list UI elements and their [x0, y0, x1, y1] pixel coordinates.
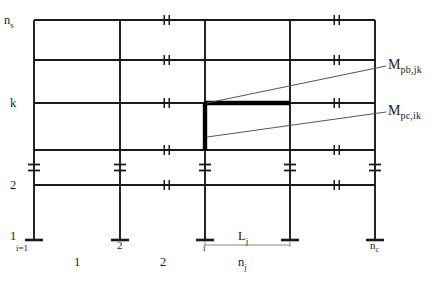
- moment-label-pc-ik: Mpc,ik: [388, 104, 421, 121]
- bay-label-2: 2: [160, 256, 166, 269]
- highlighted-members: [205, 103, 290, 150]
- bay-label-nj: nj: [238, 256, 247, 272]
- moment-label-pb-jk: Mpb,jk: [388, 58, 422, 75]
- bay-label-1: 1: [74, 256, 80, 269]
- dimension-label-Lj: Lj: [238, 230, 248, 246]
- column-index-label-nc: nc: [370, 240, 379, 254]
- story-label-k: k: [10, 97, 16, 110]
- column-index-label-i: i: [203, 244, 206, 253]
- story-label-1: 1: [10, 230, 16, 243]
- column-index-label-i1: i=1: [16, 244, 28, 253]
- story-label-ns: ns: [4, 14, 14, 30]
- frame-diagram: ns k 2 1 i=1 2 i nc 1 2 nj Lj Mpb,jk Mpc…: [0, 0, 441, 284]
- story-label-2: 2: [10, 179, 16, 192]
- leader-column-plastic-moment: [207, 112, 386, 137]
- column-index-label-2: 2: [117, 240, 123, 251]
- leader-beam-plastic-moment: [207, 66, 386, 103]
